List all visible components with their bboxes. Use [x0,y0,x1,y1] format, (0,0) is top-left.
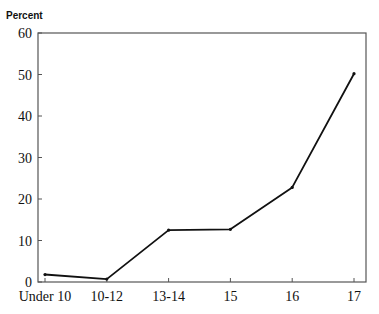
x-tick-label: 17 [347,289,361,304]
x-tick-label: 10-12 [90,289,123,304]
data-point [167,229,170,232]
y-tick-label: 30 [18,151,32,166]
y-tick-label: 40 [18,109,32,124]
data-point [43,273,46,276]
x-tick-label: 13-14 [152,289,185,304]
x-tick-label: 16 [285,289,299,304]
line-chart: Percent 0102030405060 Under 1010-1213-14… [0,0,379,314]
y-tick-label: 50 [18,68,32,83]
plot-border [38,33,366,282]
data-series [43,72,355,281]
plot-frame [38,33,366,282]
x-tick-label: 15 [223,289,237,304]
y-tick-label: 60 [18,26,32,41]
y-axis-label: Percent [6,10,43,21]
y-tick-label: 10 [18,234,32,249]
data-point [291,186,294,189]
x-tick-label: Under 10 [19,289,72,304]
data-point [105,277,108,280]
data-point [229,228,232,231]
data-point [352,72,355,75]
y-tick-label: 20 [18,192,32,207]
series-line [45,74,354,279]
y-tick-label: 0 [25,275,32,290]
